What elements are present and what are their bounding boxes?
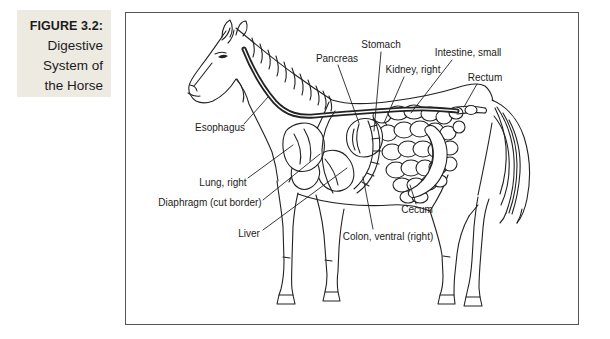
figure-number: FIGURE 3.2: <box>23 17 103 35</box>
label-liver: Liver <box>238 228 260 239</box>
ear-right <box>236 21 247 36</box>
label-esophagus: Esophagus <box>195 122 245 133</box>
diagram-frame: Pancreas Stomach Kidney, right Intestine… <box>125 12 579 325</box>
mouth-line <box>188 93 200 96</box>
label-kidney-right: Kidney, right <box>386 64 441 75</box>
label-rectum: Rectum <box>468 72 502 83</box>
figure-title: Digestive System of the Horse <box>35 36 103 96</box>
lung-shape <box>283 123 325 171</box>
label-stomach: Stomach <box>361 39 400 50</box>
buttock-line <box>478 123 492 195</box>
face-line <box>194 63 212 86</box>
front-far-leg <box>316 195 344 301</box>
knee-mark-3 <box>443 256 450 257</box>
horse-illustration <box>188 20 529 306</box>
label-diaphragm: Diaphragm (cut border) <box>158 197 261 208</box>
leader-line-esophagus <box>244 97 268 124</box>
head-outline <box>189 31 278 181</box>
figure-page: FIGURE 3.2: Digestive System of the Hors… <box>0 0 610 339</box>
eye <box>218 55 228 59</box>
figure-caption: FIGURE 3.2: Digestive System of the Hors… <box>17 10 111 97</box>
legs <box>277 181 489 306</box>
label-cecum: Cecum <box>401 204 433 215</box>
tail <box>492 100 529 223</box>
label-intestine-small: Intestine, small <box>435 47 502 58</box>
label-pancreas: Pancreas <box>316 53 358 64</box>
jowl-line <box>237 79 244 102</box>
digestive-organs <box>244 49 487 203</box>
horse-digestive-diagram: Pancreas Stomach Kidney, right Intestine… <box>126 13 577 323</box>
label-colon-ventral-right: Colon, ventral (right) <box>343 231 434 242</box>
leader-line-rectum <box>464 84 477 107</box>
mane <box>222 28 332 111</box>
label-lung-right: Lung, right <box>199 177 246 188</box>
hind-near-leg <box>430 211 469 304</box>
brow-line <box>215 52 226 54</box>
hind-far-leg <box>464 197 489 306</box>
front-near-leg <box>277 181 298 304</box>
